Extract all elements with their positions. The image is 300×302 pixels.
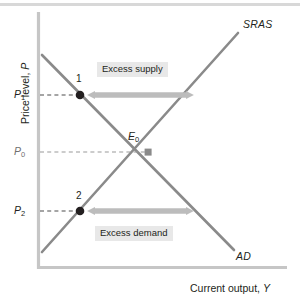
x-axis-title: Current output, Y: [190, 283, 270, 294]
supply-demand-chart: Price level, P Current output, Y P1 P0 P…: [0, 0, 300, 302]
ad-curve-label: AD: [236, 251, 251, 262]
p0-subscript: 0: [21, 150, 25, 159]
y-axis-title-variable: P: [19, 63, 31, 70]
p2-base: P: [14, 204, 21, 216]
x-axis-title-text: Current output,: [190, 282, 263, 294]
chart-canvas: [0, 0, 300, 302]
equilibrium-subscript: 0: [135, 135, 139, 144]
point-2-marker: [76, 207, 85, 216]
equilibrium-base: E: [128, 130, 135, 142]
equilibrium-label: E0: [128, 131, 139, 142]
sras-curve-label: SRAS: [243, 19, 272, 30]
excess-supply-label: Excess supply: [97, 62, 168, 77]
y-tick-label-p2: P2: [14, 205, 25, 216]
p2-subscript: 2: [21, 209, 25, 218]
excess-demand-label: Excess demand: [95, 226, 173, 241]
point-2-label: 2: [76, 191, 82, 201]
p1-base: P: [14, 88, 21, 100]
p1-subscript: 1: [21, 93, 25, 102]
p0-base: P: [14, 145, 21, 157]
y-tick-label-p1: P1: [14, 89, 25, 100]
y-tick-label-p0: P0: [14, 146, 25, 157]
equilibrium-marker: [145, 149, 152, 156]
point-1-marker: [76, 91, 85, 100]
point-1-label: 1: [76, 74, 82, 84]
x-axis-title-variable: Y: [263, 282, 270, 294]
